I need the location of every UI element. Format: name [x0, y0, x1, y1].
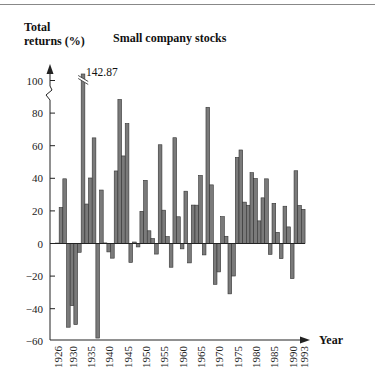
bar	[136, 244, 140, 247]
bar	[140, 211, 144, 243]
bar	[184, 191, 188, 243]
bar-chart: 100806040200−20−40−601926193019351940194…	[0, 0, 375, 387]
y-tick-label: −20	[26, 270, 44, 282]
bar	[125, 124, 129, 244]
bar	[235, 157, 239, 243]
bar	[85, 204, 89, 243]
y-axis-arrow-icon	[47, 64, 54, 74]
bar	[169, 244, 173, 268]
y-tick-label: −60	[26, 335, 44, 347]
bar	[158, 145, 162, 244]
bar	[287, 227, 291, 244]
bar	[224, 236, 228, 243]
bar	[78, 244, 82, 253]
bar	[177, 217, 181, 244]
bar	[199, 175, 203, 243]
bar	[228, 244, 232, 294]
x-tick-label: 1930	[67, 346, 79, 369]
y-tick-label: 80	[32, 107, 44, 119]
bar	[81, 74, 85, 244]
x-tick-label: 1965	[195, 346, 207, 369]
x-axis-arrow-icon	[300, 337, 310, 344]
x-tick-label: 1975	[232, 346, 244, 369]
bar	[155, 244, 159, 255]
bar	[206, 107, 210, 243]
y-tick-label: −40	[26, 303, 44, 315]
bar	[59, 207, 63, 243]
bar	[191, 205, 195, 243]
bar	[114, 171, 118, 244]
bar	[122, 156, 126, 244]
bar	[254, 178, 258, 243]
bar	[151, 239, 155, 244]
bar	[283, 206, 287, 243]
x-tick-label: 1985	[268, 346, 280, 369]
bar	[100, 190, 104, 243]
bar	[239, 150, 243, 244]
bar	[129, 244, 133, 263]
bar	[188, 244, 192, 263]
bar	[301, 209, 305, 243]
bar	[162, 210, 166, 243]
bar	[290, 244, 294, 279]
y-tick-label: 100	[27, 75, 44, 87]
y-axis-break	[46, 72, 52, 100]
x-tick-label: 1960	[177, 346, 189, 369]
y-tick-label: 0	[38, 238, 44, 250]
bar	[217, 244, 221, 272]
bar	[202, 244, 206, 255]
bar	[107, 244, 111, 252]
x-tick-label: 1950	[140, 346, 152, 369]
x-tick-label: 1955	[158, 346, 170, 369]
bar	[250, 173, 254, 244]
bar	[257, 221, 261, 244]
bar	[89, 178, 93, 244]
bar	[265, 179, 269, 244]
y-tick-label: 60	[32, 140, 44, 152]
bar	[67, 244, 71, 328]
bar	[210, 185, 214, 244]
y-tick-label: 20	[32, 205, 44, 217]
bar	[70, 244, 74, 306]
bar	[232, 244, 236, 277]
x-tick-label: 1970	[213, 346, 225, 369]
y-tick-label: 40	[32, 172, 44, 184]
bar	[298, 205, 302, 243]
bar	[173, 138, 177, 244]
bar	[195, 205, 199, 243]
bar	[279, 244, 283, 259]
bar	[111, 244, 115, 259]
x-tick-label: 1945	[122, 346, 134, 369]
bar	[118, 99, 122, 243]
bar	[246, 205, 250, 243]
bar	[180, 244, 184, 249]
x-tick-label: 1935	[85, 346, 97, 369]
bar	[294, 171, 298, 244]
bar	[221, 217, 225, 244]
bar	[96, 244, 100, 339]
bar	[213, 244, 217, 285]
x-tick-label: 1993	[298, 346, 310, 369]
bar	[92, 138, 96, 244]
x-tick-label: 1980	[250, 346, 262, 369]
x-tick-label: 1926	[52, 346, 64, 369]
bar	[166, 237, 170, 244]
bar	[74, 244, 78, 325]
bar	[272, 203, 276, 243]
bar	[261, 198, 265, 244]
bar	[147, 231, 151, 244]
bar	[63, 179, 67, 244]
bar	[276, 232, 280, 243]
bar	[243, 202, 247, 243]
bar	[144, 180, 148, 243]
bar	[268, 244, 272, 255]
x-tick-label: 1940	[103, 346, 115, 369]
